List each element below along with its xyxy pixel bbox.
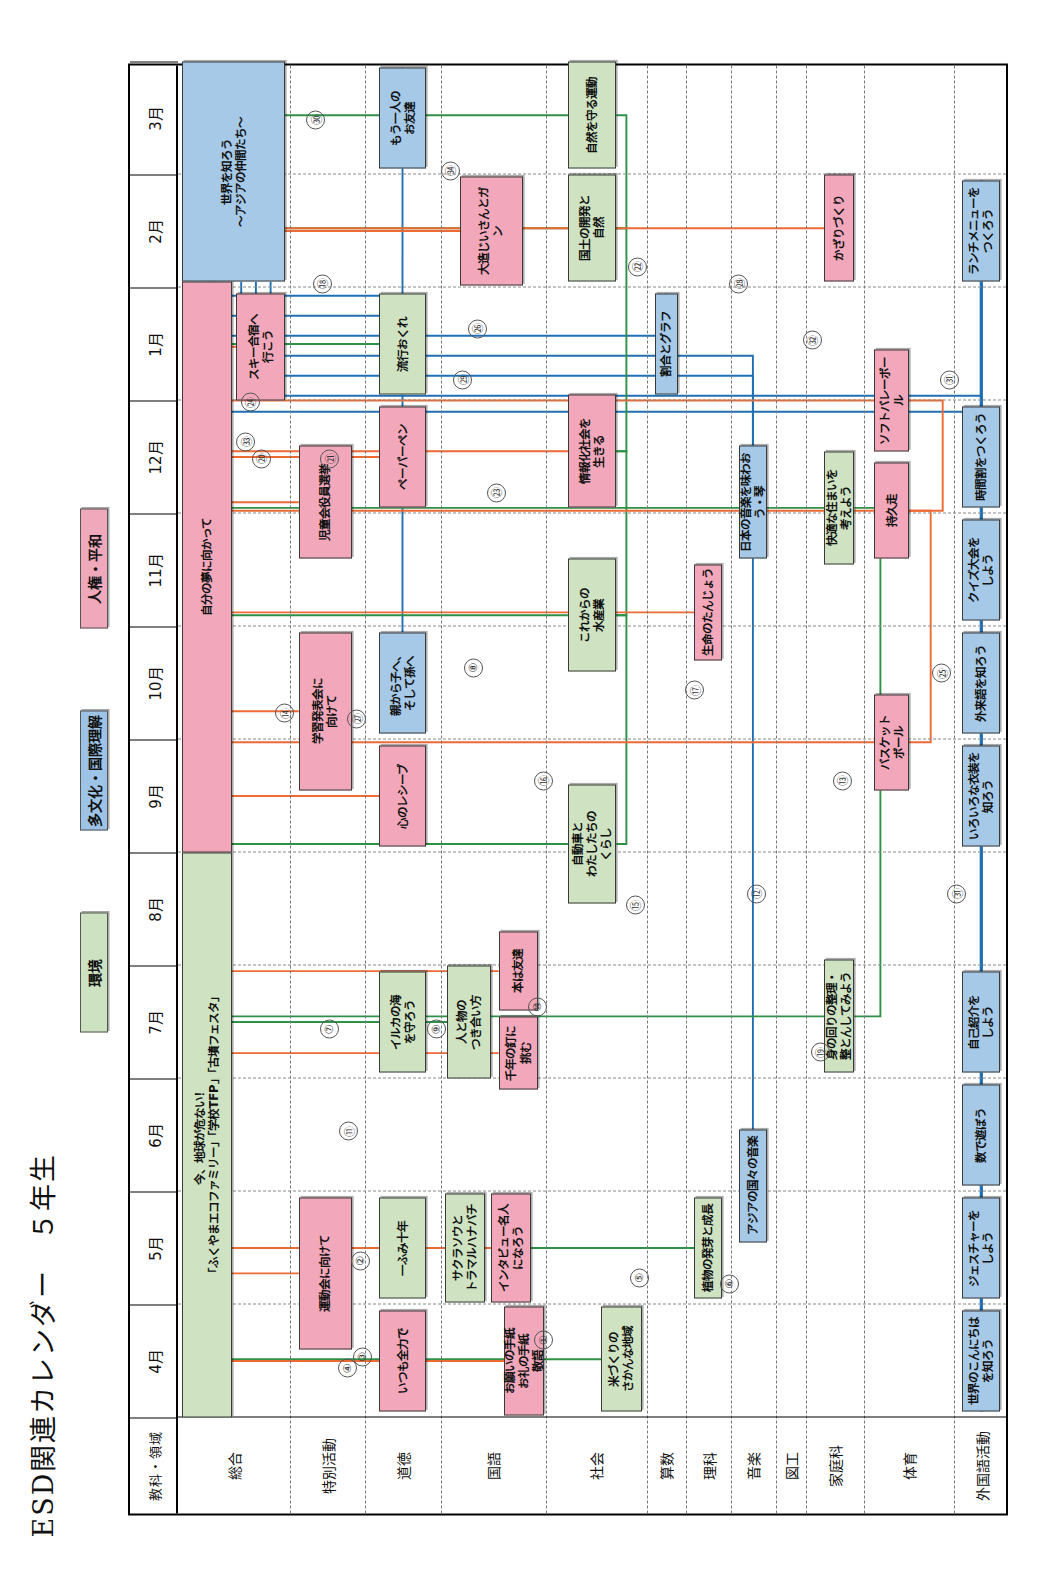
activity-box: 学習発表会に向けて xyxy=(299,632,352,790)
connector-number: ⑥ xyxy=(720,1274,739,1293)
activity-box: 割合とグラフ xyxy=(655,293,678,395)
activity-box: 快適な住まいを考えよう xyxy=(824,451,854,564)
connector-number: ㉙ xyxy=(453,370,472,389)
header-month-3: 6月 xyxy=(130,1078,178,1191)
connector-number: ㉕ xyxy=(932,664,951,683)
activity-box: これからの水産業 xyxy=(568,558,616,671)
header-month-10: 1月 xyxy=(130,287,178,400)
activity-box: ソフトバレーボール xyxy=(874,349,908,451)
connector-number: ㉗ xyxy=(347,709,366,728)
activity-box: 人と物のつき合い方 xyxy=(447,965,491,1078)
activity-box: アジアの国々の音楽 xyxy=(739,1129,767,1242)
row-label-社会: 社会 xyxy=(546,1417,647,1513)
activity-box: 今、地球が危ない！「ふくやまエコファミリー」「学校TFP」「古墳フェスタ」 xyxy=(182,852,231,1417)
row-label-算数: 算数 xyxy=(647,1417,687,1513)
activity-box: お願いの手紙お礼の手紙敬語 xyxy=(504,1306,544,1414)
row-separator xyxy=(864,65,865,1513)
connector-number: ㉞ xyxy=(441,161,460,180)
activity-box: 自動車とわたしたちのくらし xyxy=(568,784,616,903)
legend-label-human-rights-peace: 人権・平和 xyxy=(84,533,104,603)
legend-chip-multicultural: 多文化・国際理解 xyxy=(80,710,108,830)
row-separator xyxy=(365,65,366,1513)
activity-box: 自然を守る運動 xyxy=(568,61,616,168)
activity-box: イルカの海を守ろう xyxy=(379,971,426,1073)
connector-number: ㉑ xyxy=(320,449,339,468)
connector-number: ⑭ xyxy=(275,703,294,722)
row-label-家庭科: 家庭科 xyxy=(806,1417,864,1513)
page-title: ESD関連カレンダー ５年生 xyxy=(22,1152,61,1537)
activity-box: 日本の音楽を味わおう・琴 xyxy=(739,445,767,558)
connector-number: ㉒ xyxy=(628,257,647,276)
connector-number: ① xyxy=(534,1330,553,1349)
row-label-特別活動: 特別活動 xyxy=(290,1417,366,1513)
connector-number: ㉖ xyxy=(468,319,487,338)
activity-box: 心のレシーブ xyxy=(379,745,426,847)
connector-number: ⑮ xyxy=(626,895,645,914)
activity-box: 情報化社会を生きる xyxy=(568,394,616,507)
connector-number: ⑲ xyxy=(811,1042,830,1061)
activity-box: 米づくりのさかんな地域 xyxy=(601,1306,641,1411)
connector-number: ㉚ xyxy=(306,110,325,129)
label-column-divider xyxy=(178,1416,1006,1417)
activity-box: 運動会に向けて xyxy=(299,1197,352,1350)
connector-number: ㉔ xyxy=(241,392,260,411)
connector-number: ⑨ xyxy=(427,1019,446,1038)
activity-box: 数で遊ぼう xyxy=(962,1084,1000,1186)
legend-chip-environment: 環境 xyxy=(80,912,108,1032)
row-separator xyxy=(806,65,807,1513)
connector-number: ㉘ xyxy=(729,274,748,293)
header-month-4: 7月 xyxy=(130,965,178,1078)
row-separator xyxy=(290,65,291,1513)
connector-number: ⑩ xyxy=(528,997,547,1016)
activity-box: 流行おくれ xyxy=(379,293,426,395)
activity-box: 一ふみ十年 xyxy=(379,1197,426,1299)
activity-box: 国土の開発と自然 xyxy=(568,174,616,281)
activity-box: 時間割をつくろう xyxy=(962,406,1000,508)
activity-box: もう一人のお友達 xyxy=(379,67,426,169)
row-label-総合: 総合 xyxy=(178,1417,290,1513)
connector-number: ④ xyxy=(338,1358,357,1377)
row-label-音楽: 音楽 xyxy=(731,1417,776,1513)
month-divider-3 xyxy=(178,1077,1006,1078)
month-header-row: 教科・領域4月5月6月7月8月9月10月11月12月1月2月3月 xyxy=(130,65,178,1513)
activity-box: インタビュー名人になろう xyxy=(491,1193,531,1301)
row-label-図工: 図工 xyxy=(776,1417,806,1513)
header-month-8: 11月 xyxy=(130,513,178,626)
row-label-道徳: 道徳 xyxy=(365,1417,441,1513)
connector-number: ⑱ xyxy=(313,274,332,293)
activity-box: クイズ大会をしよう xyxy=(962,519,1000,621)
activity-box: 自分の夢に向かって xyxy=(182,281,231,852)
activity-box: いつも全力で xyxy=(379,1310,426,1412)
connector-number: ③ xyxy=(353,1347,372,1366)
month-divider-4 xyxy=(178,964,1006,965)
activity-box: 植物の発芽と成長 xyxy=(694,1197,722,1299)
connector-number: ⑤ xyxy=(630,1268,649,1287)
connector-number: ⑳ xyxy=(252,449,271,468)
header-month-2: 5月 xyxy=(130,1191,178,1304)
legend: 環境 多文化・国際理解 人権・平和 xyxy=(80,508,108,1032)
activity-box: 生命のたんじょう xyxy=(694,564,722,660)
connector-number: ⑪ xyxy=(339,1121,358,1140)
connector-number: ⑯ xyxy=(534,771,553,790)
month-divider-2 xyxy=(178,1190,1006,1191)
connector-number: ㉓ xyxy=(487,483,506,502)
header-month-7: 10月 xyxy=(130,626,178,739)
row-separator xyxy=(647,65,648,1513)
activity-box: 世界のこんにちはを知ろう xyxy=(962,1310,1000,1412)
header-month-6: 9月 xyxy=(130,739,178,852)
connector-number: ⑧ xyxy=(464,658,483,677)
activity-box: 千年の釘に挑む xyxy=(499,1016,539,1089)
connector-number: ㉝ xyxy=(236,432,255,451)
activity-box: かざりづくり xyxy=(824,174,854,281)
activity-box: 外来語を知ろう xyxy=(962,632,1000,734)
connector-number: ⑬ xyxy=(833,771,852,790)
header-month-12: 3月 xyxy=(130,61,178,174)
legend-label-environment: 環境 xyxy=(84,958,104,986)
header-corner: 教科・領域 xyxy=(130,1417,178,1513)
month-divider-10 xyxy=(178,286,1006,287)
row-label-理科: 理科 xyxy=(686,1417,731,1513)
connector-number: ⑦ xyxy=(320,1019,339,1038)
activity-box: 世界を知ろう～アジアの仲間たち～ xyxy=(182,61,285,281)
activity-box: いろいろな衣装を知ろう xyxy=(962,745,1000,847)
connector-number: ② xyxy=(351,1251,370,1270)
